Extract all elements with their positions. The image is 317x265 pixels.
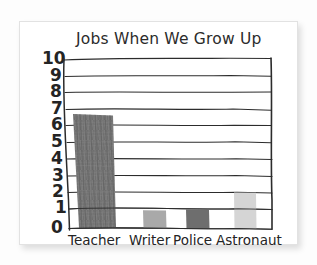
bar-police[interactable] xyxy=(186,210,210,229)
x-label-police: Police xyxy=(173,232,212,248)
screenshot-stage: Jobs When We Grow Up 10 9 8 7 6 5 4 3 2 … xyxy=(0,0,317,265)
bar-astronaut-shape[interactable] xyxy=(234,193,257,229)
bar-astronaut[interactable] xyxy=(234,193,257,229)
gridline-8 xyxy=(65,92,271,93)
y-tick-1: 1 xyxy=(55,197,67,217)
y-tick-0: 0 xyxy=(51,217,63,237)
x-label-writer: Writer xyxy=(129,232,171,248)
x-label-astronaut: Astronaut xyxy=(216,232,282,248)
chart-title: Jobs When We Grow Up xyxy=(75,30,262,48)
bar-teacher[interactable] xyxy=(73,112,116,229)
bar-police-shape[interactable] xyxy=(186,210,210,229)
bar-writer[interactable] xyxy=(143,210,167,228)
bar-writer-shape[interactable] xyxy=(143,210,167,228)
x-label-teacher: Teacher xyxy=(67,232,121,248)
